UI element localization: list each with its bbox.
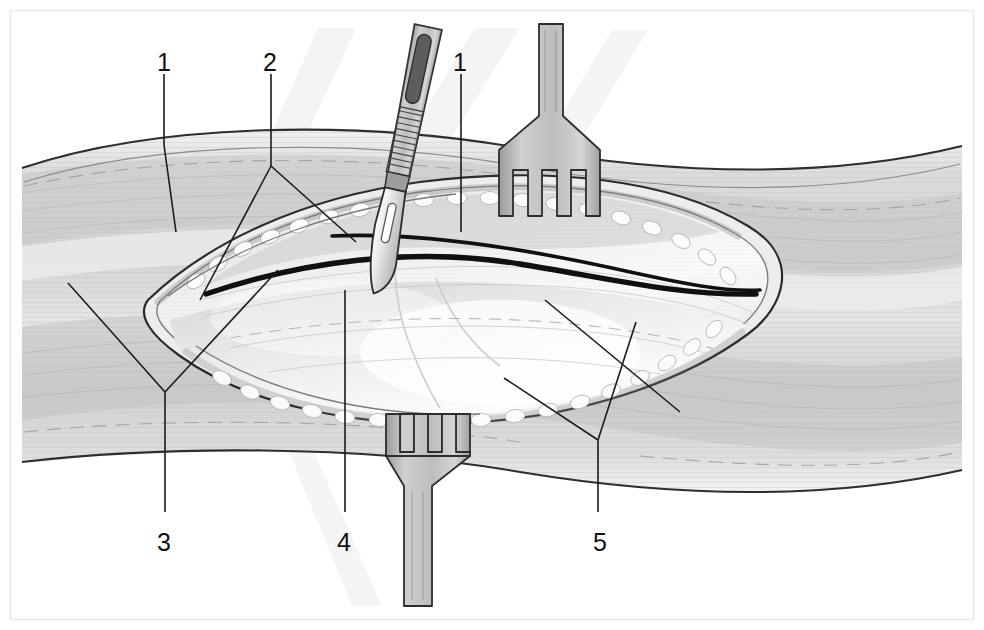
callout-label-2: 2 [263,50,277,75]
callout-label-1-right: 1 [453,50,467,75]
illustration-canvas [0,0,984,630]
callout-label-4: 4 [337,530,351,555]
retractor-bottom[interactable] [386,414,470,606]
callout-label-3: 3 [157,530,171,555]
figure-root: 1 2 1 3 4 5 [0,0,984,630]
callout-label-5: 5 [593,530,607,555]
callout-label-1-left: 1 [157,50,171,75]
